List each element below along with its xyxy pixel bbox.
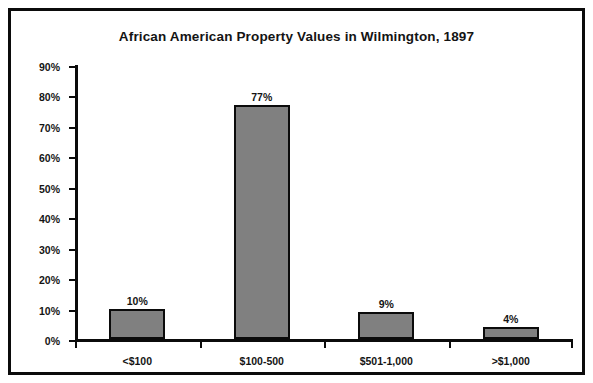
y-axis-line <box>75 65 78 342</box>
y-tick-20%: 20% <box>69 279 75 281</box>
y-tick-10%: 10% <box>69 310 75 312</box>
bar-value-label: 4% <box>503 313 518 325</box>
y-tick-90%: 90% <box>69 66 75 68</box>
figure-border: African American Property Values in Wilm… <box>8 8 585 375</box>
y-tick-label: 70% <box>39 122 60 134</box>
y-tick-40%: 40% <box>69 218 75 220</box>
category-label-<$100: <$100 <box>123 355 153 367</box>
y-tick-label: 0% <box>45 335 60 347</box>
category-label->$1,000: >$1,000 <box>492 355 530 367</box>
bar-value-label: 10% <box>127 295 148 307</box>
bar-$100-500: 77% <box>234 105 290 339</box>
bar->$1,000: 4% <box>483 327 539 339</box>
y-tick-label: 30% <box>39 244 60 256</box>
chart-screenshot: African American Property Values in Wilm… <box>0 0 593 383</box>
y-tick-label: 60% <box>39 152 60 164</box>
y-tick-label: 20% <box>39 274 60 286</box>
x-tick <box>449 342 451 348</box>
plot-area: 0%10%20%30%40%50%60%70%80%90% 10%77%9%4%… <box>75 65 573 342</box>
category-label-$100-500: $100-500 <box>240 355 284 367</box>
y-tick-50%: 50% <box>69 188 75 190</box>
y-tick-label: 40% <box>39 213 60 225</box>
x-tick <box>200 342 202 348</box>
y-tick-label: 90% <box>39 61 60 73</box>
category-label-$501-1,000: $501-1,000 <box>360 355 413 367</box>
y-tick-30%: 30% <box>69 249 75 251</box>
y-tick-70%: 70% <box>69 127 75 129</box>
y-tick-60%: 60% <box>69 157 75 159</box>
bar-$501-1,000: 9% <box>358 312 414 339</box>
x-tick <box>75 342 77 348</box>
bar-value-label: 9% <box>379 298 394 310</box>
chart-title: African American Property Values in Wilm… <box>11 29 582 44</box>
y-tick-label: 50% <box>39 183 60 195</box>
x-tick <box>324 342 326 348</box>
y-tick-label: 10% <box>39 305 60 317</box>
y-tick-label: 80% <box>39 91 60 103</box>
y-tick-80%: 80% <box>69 96 75 98</box>
bar-value-label: 77% <box>251 91 272 103</box>
x-tick <box>571 342 573 348</box>
bar-<$100: 10% <box>109 309 165 339</box>
